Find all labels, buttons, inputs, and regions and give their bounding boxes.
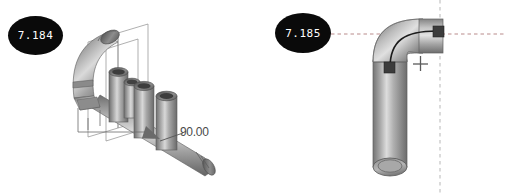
endpoint-marker-start[interactable] [384,62,395,73]
pipe-vertical-leg [373,60,407,176]
figure-number-badge-7184: 7.184 [8,16,63,55]
pipe-elbow-bend [373,19,423,62]
angle-dimension-label: 90.00 [180,125,209,139]
crosshair-marker [413,56,428,71]
figure-7185: 7.185 [253,0,506,195]
figure-pair-canvas: 7.184 90.00 [0,0,506,195]
branch-stack-4 [156,91,177,150]
endpoint-marker-end[interactable] [433,26,444,37]
figure-7184: 7.184 90.00 [0,0,253,195]
branch-stack-3 [134,81,154,138]
figure-number-badge-7185: 7.185 [275,13,331,53]
